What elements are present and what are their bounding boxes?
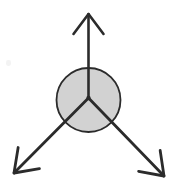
application-point-dot <box>86 96 90 100</box>
vector-diagram-canvas <box>0 0 176 190</box>
free-body-diagram <box>0 0 176 190</box>
